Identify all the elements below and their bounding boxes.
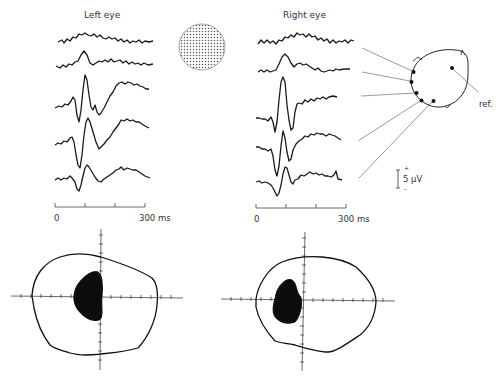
reference-label: ref. [479,99,493,109]
right-trace-5 [256,167,342,196]
scale-plus-sign: + [404,164,409,171]
right-trace-3 [256,77,337,132]
right-field-scotoma [273,279,302,323]
scale-bar: + 5 µV – [396,164,423,192]
leader-line-1 [362,48,412,71]
electrode-5 [432,99,436,103]
electrode-4 [420,99,424,103]
scale-minus-sign: – [404,185,407,192]
left-trace-1 [58,33,153,43]
right-trace-1 [258,33,354,44]
head-diagram: ref. [358,48,493,178]
right-eye-panel: Right eye 0 300 ms [254,10,370,224]
right-axis-end-label: 300 ms [338,214,370,224]
scale-bar-label: 5 µV [403,174,423,184]
right-field-axes [221,232,395,371]
figure-canvas: Left eye 0 300 ms Right eye [0,0,504,381]
right-trace-4 [256,131,341,176]
electrode-2 [410,80,414,84]
leader-line-4 [358,101,420,141]
right-visual-field [221,232,395,371]
right-time-axis: 0 300 ms [254,204,370,224]
left-trace-2 [56,51,153,68]
electrode-3 [415,91,419,95]
electrode-1 [412,70,416,74]
left-field-scotoma [74,272,102,321]
left-trace-5 [55,165,150,191]
leader-line-5 [359,102,432,178]
left-trace-4 [55,118,149,168]
head-nose-icon [413,57,422,61]
right-eye-title: Right eye [283,10,326,20]
right-axis-start-label: 0 [254,214,259,224]
left-eye-title: Left eye [84,10,121,20]
leader-line-2 [362,72,410,81]
right-trace-2 [258,54,350,72]
left-axis-end-label: 300 ms [139,213,171,223]
leader-line-3 [361,93,415,96]
left-visual-field [11,229,183,370]
left-trace-3 [55,75,149,122]
dotted-disc-stimulus-icon [179,24,225,70]
left-time-axis: 0 300 ms [54,203,171,223]
left-eye-panel: Left eye 0 300 ms [54,10,171,223]
left-axis-start-label: 0 [54,213,59,223]
